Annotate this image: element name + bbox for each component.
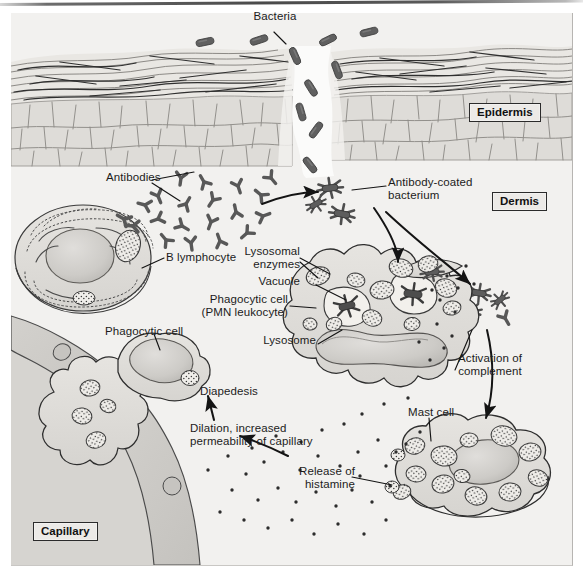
- label-release-of-histamine: Release of histamine: [283, 465, 355, 491]
- epidermis-left: [11, 48, 292, 166]
- region-label-epidermis: Epidermis: [469, 103, 541, 122]
- label-dilation-permeability: Dilation, increased permeability of capi…: [190, 422, 313, 448]
- label-phagocytic-cell: Phagocytic cell: [105, 325, 183, 338]
- label-phagocytic-cell-pmn: Phagocytic cell (PMN leukocyte): [170, 293, 288, 319]
- label-vacuole: Vacuole: [210, 275, 300, 288]
- label-lysosome: Lysosome: [200, 334, 316, 347]
- label-antibody-coated-bacterium: Antibody-coated bacterium: [388, 176, 473, 202]
- label-antibodies: Antibodies: [106, 171, 161, 184]
- diagram-canvas: Bacteria Antibodies Antibody-coated bact…: [0, 0, 583, 579]
- region-label-capillary: Capillary: [33, 522, 98, 541]
- region-label-dermis: Dermis: [492, 192, 547, 211]
- diagram-artwork: [0, 0, 583, 579]
- label-lysosomal-enzymes: Lysosomal enzymes: [193, 245, 300, 271]
- label-mast-cell: Mast cell: [408, 406, 454, 419]
- label-bacteria: Bacteria: [235, 10, 315, 23]
- label-diapedesis: Diapedesis: [200, 385, 258, 398]
- label-activation-of-complement: Activation of complement: [447, 352, 533, 378]
